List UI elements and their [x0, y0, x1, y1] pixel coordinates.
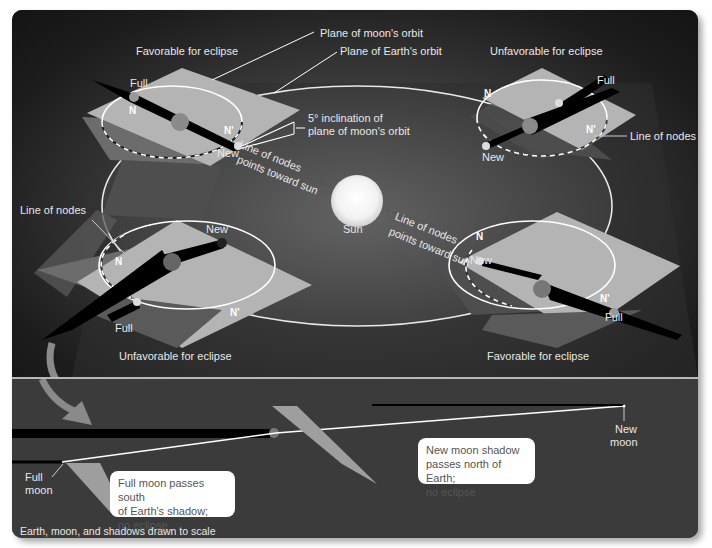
- new-callout-line-1: New moon shadow: [426, 443, 527, 457]
- diagram-panel: Favorable for eclipse Plane of moon's or…: [12, 10, 698, 538]
- node-n-top-right: N: [484, 87, 491, 100]
- label-new-top-left: New: [217, 147, 239, 160]
- label-full-top-left: Full: [130, 77, 148, 90]
- new-callout-line-3: no eclipse: [426, 485, 527, 499]
- node-n-bottom-left: N: [115, 255, 122, 268]
- node-n-prime-bottom-right: N': [600, 292, 610, 305]
- label-favorable-bottom-right: Favorable for eclipse: [487, 350, 589, 363]
- label-full-moon-2: moon: [25, 484, 53, 497]
- label-line-of-nodes-bottom-left: Line of nodes: [20, 204, 86, 217]
- label-plane-earth-orbit: Plane of Earth's orbit: [340, 45, 442, 58]
- label-full-bottom-left: Full: [115, 322, 133, 335]
- full-callout-line-1: Full moon passes south: [118, 476, 227, 504]
- label-full-bottom-right: Full: [605, 311, 623, 324]
- node-n-prime-top-right: N': [586, 123, 596, 136]
- new-callout-line-2: passes north of Earth;: [426, 457, 527, 485]
- node-n-top-left: N: [129, 104, 136, 117]
- label-sun: Sun: [343, 223, 363, 236]
- label-line-of-nodes-top-right: Line of nodes: [630, 130, 696, 143]
- to-scale-diagram: Full moon New moon Full moon passes sout…: [12, 379, 698, 538]
- label-unfavorable-top-right: Unfavorable for eclipse: [490, 45, 603, 58]
- node-n-prime-bottom-left: N': [230, 306, 240, 319]
- label-inclination-1: 5° inclination of: [308, 112, 383, 125]
- label-inclination-2: plane of moon's orbit: [308, 125, 410, 138]
- label-new-bottom-left: New: [206, 223, 228, 236]
- full-moon-callout: Full moon passes south of Earth's shadow…: [110, 471, 235, 517]
- label-new-moon-2: moon: [610, 436, 638, 449]
- new-moon-callout: New moon shadow passes north of Earth; n…: [418, 438, 535, 484]
- label-plane-moon-orbit: Plane of moon's orbit: [320, 27, 423, 40]
- sun-icon: [331, 175, 383, 227]
- label-full-top-right: Full: [597, 74, 615, 87]
- label-new-top-right: New: [482, 151, 504, 164]
- label-full-moon-1: Full: [25, 471, 43, 484]
- node-n-prime-top-left: N': [224, 124, 234, 137]
- scale-caption: Earth, moon, and shadows drawn to scale: [20, 525, 216, 538]
- label-unfavorable-bottom-left: Unfavorable for eclipse: [119, 350, 232, 363]
- node-n-bottom-right: N: [476, 230, 483, 243]
- label-favorable-top-left: Favorable for eclipse: [136, 45, 238, 58]
- full-callout-line-2: of Earth's shadow;: [118, 504, 227, 518]
- label-new-moon-1: New: [615, 423, 637, 436]
- label-new-bottom-right: New: [470, 254, 492, 267]
